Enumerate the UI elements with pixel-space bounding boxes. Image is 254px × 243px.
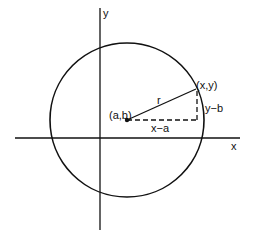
y-axis-label: y [103, 8, 109, 19]
vertical-leg-label: y−b [205, 103, 223, 114]
horizontal-leg-label: x−a [151, 123, 169, 134]
center-label: (a,b) [109, 110, 132, 121]
circle-diagram: y x (a,b) (x,y) r x−a y−b [0, 0, 254, 243]
radius-label: r [157, 95, 161, 106]
point-label: (x,y) [196, 80, 217, 91]
radius-line [127, 89, 196, 120]
x-axis-label: x [231, 141, 237, 152]
diagram-canvas [0, 0, 254, 243]
